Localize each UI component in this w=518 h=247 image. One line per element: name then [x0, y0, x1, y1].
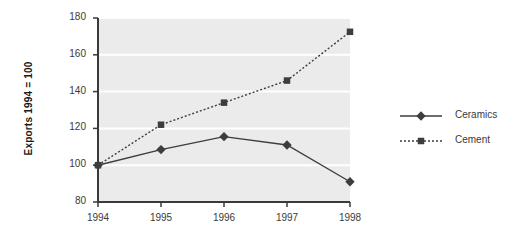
legend-marker-ceramics — [416, 111, 425, 120]
x-axis-tick-label: 1997 — [265, 212, 309, 223]
x-axis-tick-label: 1995 — [139, 212, 183, 223]
y-axis-tick-label: 180 — [58, 11, 86, 22]
exports-line-chart: Exports 1994 = 100 801001201401601801994… — [0, 0, 518, 247]
x-axis-tick-label: 1998 — [328, 212, 372, 223]
data-point-marker — [95, 162, 102, 169]
legend-label-ceramics: Ceramics — [455, 109, 497, 120]
y-axis-tick-label: 100 — [58, 158, 86, 169]
legend-marker-cement — [418, 138, 425, 145]
data-point-marker — [221, 99, 228, 106]
data-point-marker — [347, 29, 354, 36]
x-axis-tick-label: 1994 — [76, 212, 120, 223]
legend-label-cement: Cement — [455, 134, 490, 145]
data-point-marker — [418, 138, 425, 145]
plot-background — [98, 18, 350, 202]
y-axis-tick-label: 120 — [58, 121, 86, 132]
data-point-marker — [284, 77, 291, 84]
y-axis-tick-label: 160 — [58, 48, 86, 59]
y-axis-tick-label: 80 — [58, 195, 86, 206]
data-point-marker — [158, 121, 165, 128]
data-point-marker — [416, 111, 425, 120]
x-axis-tick-label: 1996 — [202, 212, 246, 223]
y-axis-tick-label: 140 — [58, 85, 86, 96]
